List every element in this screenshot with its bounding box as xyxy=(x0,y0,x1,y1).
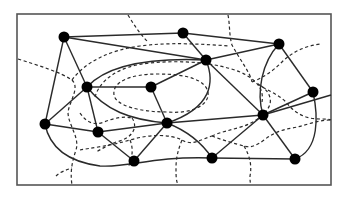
node-n6 xyxy=(146,82,157,93)
edge-n1-n2 xyxy=(64,33,183,37)
edge-n6-n10 xyxy=(151,87,167,123)
edge-n8-n13 xyxy=(45,124,212,166)
edge-n3-n11 xyxy=(260,44,279,115)
node-n13 xyxy=(207,153,218,164)
edge-n1-n8 xyxy=(45,37,64,124)
node-n4 xyxy=(201,55,212,66)
node-n10 xyxy=(162,118,173,129)
edge-n1-n5 xyxy=(64,37,87,87)
node-n7 xyxy=(308,87,319,98)
dual-edge xyxy=(56,168,72,176)
edge-n11-n13 xyxy=(212,115,263,158)
dual-edge xyxy=(176,140,182,185)
graph-edges xyxy=(45,33,331,166)
node-n2 xyxy=(178,28,189,39)
node-n5 xyxy=(82,82,93,93)
node-n8 xyxy=(40,119,51,130)
edge-n13-n14 xyxy=(212,158,295,159)
node-n11 xyxy=(258,110,269,121)
edge-n7-n11 xyxy=(263,92,313,115)
edge-n2-n3 xyxy=(183,33,279,44)
edge-n11-n13b xyxy=(167,123,212,158)
dual-edge xyxy=(128,15,148,42)
node-n9 xyxy=(93,127,104,138)
graph-nodes xyxy=(40,28,319,167)
edge-n10-n11 xyxy=(167,115,263,123)
node-n1 xyxy=(59,32,70,43)
dual-edge xyxy=(258,84,331,120)
dual-edge xyxy=(244,146,251,185)
edge-n1-n4 xyxy=(64,37,206,60)
edge-n9-n10 xyxy=(98,123,167,132)
edge-n10-n12 xyxy=(134,123,167,161)
edge-n4-n10 xyxy=(167,60,210,123)
edge-n3-n4 xyxy=(206,44,279,60)
node-n14 xyxy=(290,154,301,165)
edge-n5-n10 xyxy=(87,87,167,123)
dual-edge xyxy=(114,74,208,112)
edge-n4-n11 xyxy=(206,60,263,115)
node-n3 xyxy=(274,39,285,50)
planar-graph-diagram xyxy=(0,0,348,197)
node-n12 xyxy=(129,156,140,167)
